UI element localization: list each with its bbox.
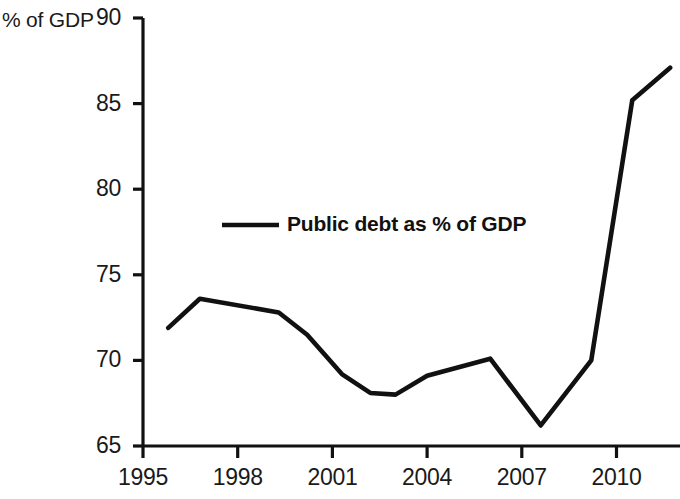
x-tick-label-2001: 2001 [287, 464, 377, 490]
line-chart-plot [0, 0, 680, 499]
y-tick-label-65: 65 [63, 432, 121, 458]
y-tick-label-75: 75 [63, 261, 121, 287]
x-tick-label-2004: 2004 [382, 464, 472, 490]
x-tick-label-2007: 2007 [477, 464, 567, 490]
chart-series [168, 68, 670, 426]
x-tick-label-2010: 2010 [572, 464, 662, 490]
chart-axes [133, 18, 680, 458]
x-tick-label-1998: 1998 [193, 464, 283, 490]
y-tick-label-85: 85 [63, 90, 121, 116]
legend-entry-label: Public debt as % of GDP [287, 212, 526, 236]
chart-canvas: % of GDP 657075808590 199519982001200420… [0, 0, 680, 499]
y-tick-label-80: 80 [63, 175, 121, 201]
y-tick-label-70: 70 [63, 346, 121, 372]
x-tick-label-1995: 1995 [98, 464, 188, 490]
y-tick-label-90: 90 [63, 4, 121, 30]
